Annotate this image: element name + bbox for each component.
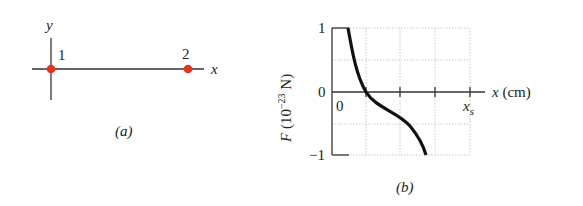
y-axis-label: y [44,17,53,33]
caption-b: (b) [396,179,414,196]
y-tick-1: 1 [318,20,326,36]
f-axis-title: F (10−23 N) [276,74,295,143]
particle-2-dot [184,65,193,74]
figure-b: 1 0 −1 0 xs x (cm) F (10−23 N) (b) [276,20,531,196]
y-tick-neg1: −1 [309,147,325,163]
caption-a: (a) [115,123,133,140]
x-axis-label: x [210,61,218,77]
particle-2-label: 2 [182,46,190,62]
particle-1-label: 1 [58,47,66,63]
x-axis-title: x (cm) [491,84,531,101]
figure-canvas: y 1 2 x (a) 1 0 [0,0,583,206]
figure-a: y 1 2 x (a) [32,17,218,140]
y-tick-0: 0 [318,84,326,100]
x-end-label: xs [462,98,474,117]
x-origin-label: 0 [336,98,344,114]
particle-1-dot [47,65,56,74]
